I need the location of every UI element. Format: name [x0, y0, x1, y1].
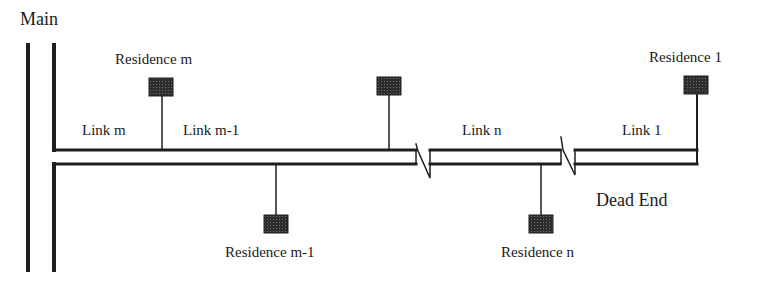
residence-n-label: Residence n	[501, 245, 574, 260]
residence-m-1-label: Residence m-1	[225, 245, 315, 260]
main-label: Main	[20, 10, 58, 28]
link-1-label: Link 1	[622, 123, 662, 138]
dead-end-label: Dead End	[596, 191, 667, 209]
residence-m-label: Residence m	[115, 52, 192, 67]
residence-1-box	[684, 76, 708, 94]
diagram-graphics	[0, 0, 761, 282]
residence-unlabeled-box	[377, 77, 401, 95]
residence-m-1-box	[264, 215, 288, 233]
link-m-label: Link m	[82, 123, 126, 138]
service-line-diagram: Main Residence m Residence 1 Residence m…	[0, 0, 761, 282]
residence-n-box	[529, 215, 553, 233]
break-symbol-1	[416, 144, 430, 178]
link-m-1-label: Link m-1	[183, 123, 239, 138]
break-symbol-2	[561, 137, 575, 175]
link-n-label: Link n	[462, 123, 502, 138]
residence-m-box	[149, 78, 173, 96]
residence-1-label: Residence 1	[649, 50, 722, 65]
